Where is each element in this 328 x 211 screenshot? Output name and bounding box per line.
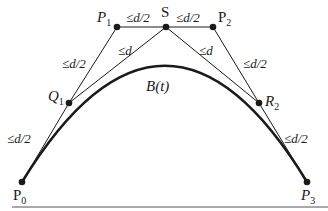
ann-p0-q1: ≤d/2 [7, 131, 31, 146]
point-p0 [19, 179, 26, 186]
ann-p2-r2: ≤d/2 [243, 56, 267, 71]
curve-label: B(t) [146, 78, 169, 95]
curve-label-text: B(t) [146, 78, 169, 95]
label-r2: R2 [264, 93, 279, 112]
ann-q1-p1: ≤d/2 [62, 56, 86, 71]
label-q1: Q1 [48, 88, 64, 107]
label-s: S [161, 4, 169, 20]
label-p0: P0 [13, 187, 26, 206]
label-p3: P3 [300, 187, 315, 206]
ann-q1-s: ≤d [118, 43, 132, 58]
ann-s-p2: ≤d/2 [176, 10, 200, 25]
ann-r2-p3: ≤d/2 [284, 131, 308, 146]
point-r2 [256, 100, 263, 107]
label-p1: P1 [96, 9, 111, 28]
point-p2 [210, 24, 217, 31]
point-p1 [114, 24, 121, 31]
label-p2: P2 [218, 9, 231, 28]
point-s [163, 24, 170, 31]
point-p3 [304, 179, 311, 186]
bezier-diagram: P0P1SP2Q1R2P3 ≤d/2≤d/2≤d/2≤d≤d≤d/2≤d/2≤d… [0, 0, 328, 211]
ann-p1-s: ≤d/2 [126, 10, 150, 25]
ann-s-r2: ≤d [199, 43, 213, 58]
point-labels: P0P1SP2Q1R2P3 [13, 4, 315, 206]
point-q1 [66, 100, 73, 107]
